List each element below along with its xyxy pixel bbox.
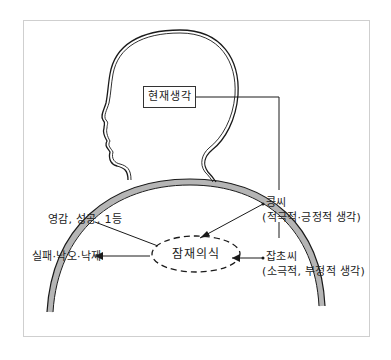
subconscious-label: 잠재의식	[150, 247, 242, 261]
current-thought-box: 현재생각	[143, 86, 196, 108]
weed-seed-description: (소극적, 부정적 생각)	[262, 265, 365, 278]
connector-lines	[95, 97, 279, 258]
bean-seed-title: 콩씨	[266, 196, 287, 209]
bean-seed-description: (적극적·긍정적 생각)	[262, 211, 361, 224]
weed-seed-title: 잡초씨	[266, 250, 297, 263]
negative-outcome-label: 실패·낙오·낙제	[32, 250, 101, 263]
positive-outcome-label: 영감, 성공, 1등	[48, 213, 122, 226]
head-silhouette-illustration	[0, 0, 391, 360]
